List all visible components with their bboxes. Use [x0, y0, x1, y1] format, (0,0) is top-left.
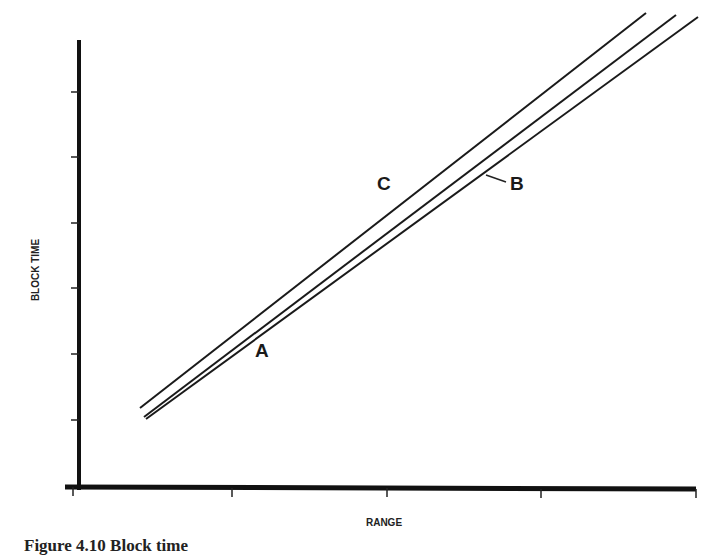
b-leader-line: [486, 175, 506, 182]
curve-label-a: A: [255, 340, 269, 362]
curve-c: [140, 13, 646, 408]
y-axis-label: BLOCK TIME: [30, 239, 41, 301]
curve-b: [144, 15, 676, 417]
x-axis-label: RANGE: [366, 517, 402, 528]
curve-a: [146, 17, 698, 419]
curve-label-b: B: [510, 173, 524, 195]
curve-label-c: C: [377, 173, 391, 195]
x-axis: [65, 487, 696, 489]
figure-caption: Figure 4.10 Block time: [24, 536, 188, 556]
